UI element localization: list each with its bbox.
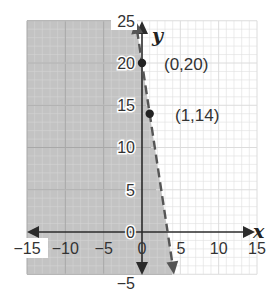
y-tick-label: −5 <box>117 275 135 292</box>
x-axis-label: x <box>252 220 265 242</box>
x-tick-labels: −15 −10 −5 0 5 10 15 <box>8 238 266 258</box>
x-tick-label: 5 <box>177 240 186 257</box>
x-tick-label: −5 <box>95 240 113 257</box>
y-tick-label: 10 <box>117 139 135 156</box>
y-tick-label: 15 <box>117 97 135 114</box>
point-label-0-20: (0,20) <box>164 55 208 74</box>
point-label-1-14: (1,14) <box>175 106 219 125</box>
point-1-14 <box>146 110 154 118</box>
x-tick-label: 0 <box>138 240 147 257</box>
y-tick-label: 20 <box>117 55 135 72</box>
x-tick-label: −15 <box>13 240 40 257</box>
y-tick-label: 0 <box>126 224 135 241</box>
inequality-graph: −15 −10 −5 0 5 10 15 25 20 15 10 5 0 −5 … <box>0 0 275 296</box>
x-tick-label: −10 <box>52 240 79 257</box>
y-axis-label: y <box>151 24 165 46</box>
point-0-20 <box>138 59 146 67</box>
y-tick-label: 25 <box>117 13 135 30</box>
x-tick-label: 15 <box>248 240 266 257</box>
y-tick-label: 5 <box>126 182 135 199</box>
x-tick-label: 10 <box>210 240 228 257</box>
